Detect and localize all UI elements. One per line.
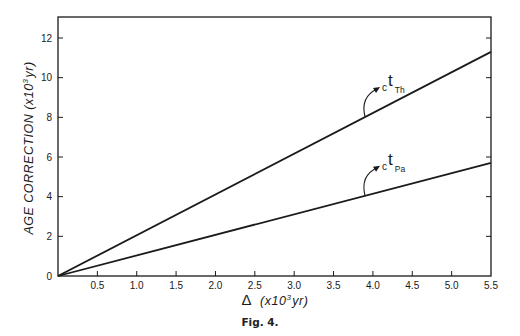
y-tick-label: 10	[41, 72, 53, 83]
x-tick-label: 1.0	[130, 280, 144, 291]
x-axis-ticks: 0.51.01.52.02.53.03.54.04.55.05.5	[90, 271, 498, 291]
annotation-arrow-ct_Pa	[364, 168, 377, 196]
x-tick-label: 1.5	[169, 280, 183, 291]
series-annotations: ctThctPa	[364, 71, 406, 196]
x-tick-label: 4.0	[366, 280, 380, 291]
y-tick-label: 0	[46, 271, 52, 282]
plot-frame	[58, 17, 491, 276]
x-tick-label: 3.0	[287, 280, 301, 291]
y-axis-title: AGE CORRECTION (x103yr)	[21, 61, 36, 235]
y-axis-ticks: 024681012	[41, 33, 491, 282]
y-tick-label: 12	[41, 33, 53, 44]
x-tick-label: 2.0	[209, 280, 223, 291]
chart: 024681012 0.51.01.52.02.53.03.54.04.55.0…	[0, 0, 520, 336]
series-label-ct_Pa: ctPa	[382, 150, 405, 174]
data-series	[58, 52, 491, 276]
y-tick-label: 6	[46, 152, 52, 163]
plot-border	[58, 17, 491, 276]
x-tick-label: 3.5	[327, 280, 341, 291]
x-tick-label: 0.5	[90, 280, 104, 291]
series-line-ct_Th	[58, 52, 491, 276]
series-label-ct_Th: ctTh	[382, 71, 405, 95]
series-line-ct_Pa	[58, 163, 491, 276]
x-tick-label: 5.0	[445, 280, 459, 291]
x-axis-title: Δ(x103yr)	[242, 291, 309, 308]
figure-caption: Fig. 4.	[0, 316, 520, 328]
y-tick-label: 8	[46, 112, 52, 123]
y-tick-label: 2	[46, 231, 52, 242]
y-tick-label: 4	[46, 191, 52, 202]
x-tick-label: 2.5	[248, 280, 262, 291]
x-tick-label: 4.5	[405, 280, 419, 291]
x-tick-label: 5.5	[484, 280, 498, 291]
